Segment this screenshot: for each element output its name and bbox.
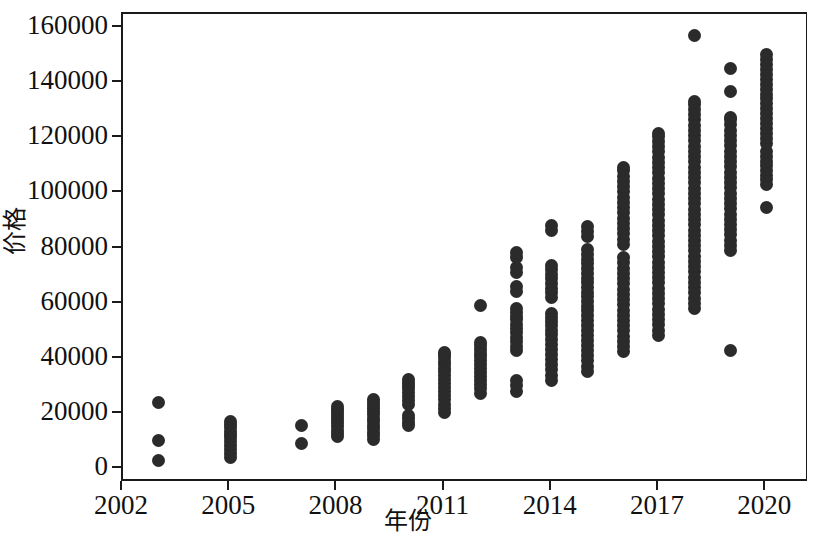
data-point (724, 62, 737, 75)
y-axis-tick-label: 60000 (4, 288, 108, 315)
y-axis-tick-mark (112, 135, 121, 137)
x-axis-tick-mark (120, 481, 122, 490)
y-axis-tick-label: 0 (4, 453, 108, 480)
data-point (474, 336, 487, 349)
data-point (724, 111, 737, 124)
y-axis-tick-label: 20000 (4, 398, 108, 425)
y-axis-tick-mark (112, 356, 121, 358)
data-point (760, 48, 773, 61)
x-axis-tick-mark (763, 481, 765, 490)
data-point (152, 434, 165, 447)
data-point (617, 251, 630, 264)
data-point (510, 302, 523, 315)
y-axis-tick-mark (112, 25, 121, 27)
data-point (760, 201, 773, 214)
x-axis-tick-mark (442, 481, 444, 490)
y-axis-title: 价格 (2, 181, 28, 281)
y-axis-tick-mark (112, 80, 121, 82)
data-point (510, 374, 523, 387)
data-point (224, 415, 237, 428)
data-point (438, 346, 451, 359)
x-axis-tick-mark (549, 481, 551, 490)
scatter-plot-figure: 0200004000060000800001000001200001400001… (0, 0, 815, 537)
data-point (367, 393, 380, 406)
data-point (617, 161, 630, 174)
y-axis-tick-mark (112, 411, 121, 413)
data-point (295, 419, 308, 432)
x-axis-tick-mark (656, 481, 658, 490)
y-axis-tick-mark (112, 190, 121, 192)
data-point (545, 259, 558, 272)
data-point (724, 344, 737, 357)
data-point (152, 454, 165, 467)
plot-area (121, 12, 807, 481)
data-point (295, 437, 308, 450)
data-point (510, 280, 523, 293)
data-point (152, 396, 165, 409)
y-axis-tick-label: 160000 (4, 12, 108, 39)
data-point (581, 220, 594, 233)
y-axis-tick-label: 40000 (4, 343, 108, 370)
y-axis-tick-mark (112, 301, 121, 303)
data-point (688, 29, 701, 42)
y-axis-tick-label: 120000 (4, 122, 108, 149)
x-axis-tick-mark (227, 481, 229, 490)
data-point (724, 85, 737, 98)
data-point (688, 95, 701, 108)
x-axis-tick-mark (334, 481, 336, 490)
data-point (474, 299, 487, 312)
y-axis-tick-label: 140000 (4, 67, 108, 94)
data-point (510, 246, 523, 259)
y-axis-tick-mark (112, 466, 121, 468)
x-axis-title: 年份 (0, 508, 815, 534)
y-axis-tick-mark (112, 246, 121, 248)
